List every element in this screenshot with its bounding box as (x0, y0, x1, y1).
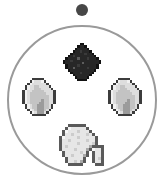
slot-top[interactable]: Coal (63, 43, 101, 81)
slot-right[interactable]: Pearl (106, 78, 144, 116)
coal-icon (63, 43, 101, 81)
pearl-icon (20, 78, 58, 116)
scene-title: Radial Item Ring (0, 0, 1, 1)
slot-left[interactable]: Pearl (20, 78, 58, 116)
selection-dot[interactable] (76, 4, 88, 16)
radial-ring-scene: Radial Item Ring Coal Pearl Pearl Gravel (0, 0, 165, 191)
slot-bottom[interactable]: Gravel (56, 121, 104, 169)
pearl-icon (106, 78, 144, 116)
gravel-icon (56, 121, 104, 169)
